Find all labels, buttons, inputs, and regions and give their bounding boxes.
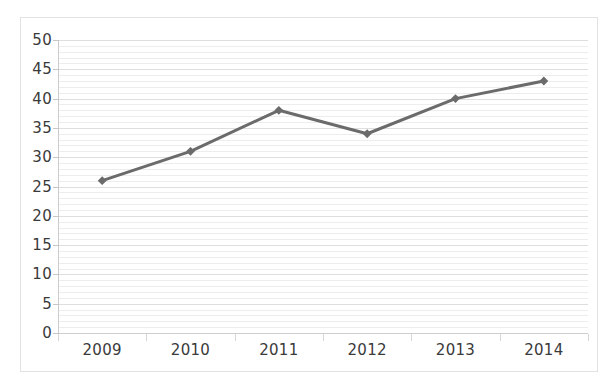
y-tick-label: 5 bbox=[42, 295, 52, 313]
y-tick-mark bbox=[53, 187, 59, 188]
gridline-major bbox=[58, 274, 588, 275]
x-tick-separator bbox=[146, 334, 147, 341]
gridline-major bbox=[58, 157, 588, 158]
y-tick-label: 50 bbox=[32, 31, 52, 49]
y-tick-label: 45 bbox=[32, 60, 52, 78]
y-tick-mark bbox=[53, 274, 59, 275]
gridline-major bbox=[58, 40, 588, 41]
x-tick-label: 2011 bbox=[259, 341, 298, 359]
x-tick-label: 2009 bbox=[82, 341, 121, 359]
y-tick-mark bbox=[53, 304, 59, 305]
gridline-major bbox=[58, 216, 588, 217]
x-tick-label: 2013 bbox=[436, 341, 475, 359]
x-tick-separator bbox=[588, 334, 589, 341]
y-tick-mark bbox=[53, 216, 59, 217]
plot-area bbox=[58, 40, 588, 333]
y-tick-mark bbox=[53, 128, 59, 129]
x-tick-label: 2014 bbox=[524, 341, 563, 359]
x-tick-separator bbox=[235, 334, 236, 341]
y-tick-label: 25 bbox=[32, 178, 52, 196]
y-tick-label: 35 bbox=[32, 119, 52, 137]
x-tick-separator bbox=[323, 334, 324, 341]
x-tick-label: 2012 bbox=[347, 341, 386, 359]
y-tick-label: 0 bbox=[42, 324, 52, 342]
y-tick-label: 20 bbox=[32, 207, 52, 225]
y-tick-mark bbox=[53, 245, 59, 246]
y-tick-mark bbox=[53, 157, 59, 158]
x-axis-labels: 200920102011201220132014 bbox=[58, 341, 588, 367]
x-tick-label: 2010 bbox=[171, 341, 210, 359]
y-axis-labels: 05101520253035404550 bbox=[0, 0, 52, 389]
gridline-major bbox=[58, 187, 588, 188]
x-tick-separator bbox=[58, 334, 59, 341]
gridline-major bbox=[58, 99, 588, 100]
gridline-major bbox=[58, 304, 588, 305]
y-tick-label: 30 bbox=[32, 148, 52, 166]
x-tick-separator bbox=[411, 334, 412, 341]
gridline-major bbox=[58, 69, 588, 70]
x-tick-separator bbox=[500, 334, 501, 341]
y-tick-label: 10 bbox=[32, 265, 52, 283]
gridline-major bbox=[58, 245, 588, 246]
y-tick-mark bbox=[53, 99, 59, 100]
major-gridlines bbox=[58, 40, 588, 333]
gridline-major bbox=[58, 128, 588, 129]
y-tick-mark bbox=[53, 69, 59, 70]
y-tick-mark bbox=[53, 40, 59, 41]
y-tick-label: 15 bbox=[32, 236, 52, 254]
line-chart: 05101520253035404550 2009201020112012201… bbox=[0, 0, 616, 389]
y-tick-label: 40 bbox=[32, 90, 52, 108]
